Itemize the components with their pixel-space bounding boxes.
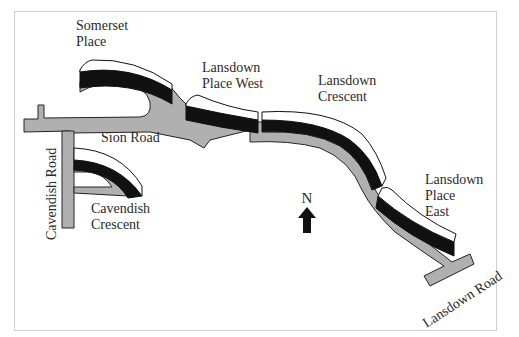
label-sion-road: Sion Road (101, 130, 160, 146)
compass-north-label: N (296, 190, 318, 206)
label-line: Lansdown (425, 172, 483, 188)
label-line: Place West (202, 76, 263, 92)
label-line: East (425, 204, 483, 220)
label-cavendish-crescent: Cavendish Crescent (91, 201, 150, 233)
label-cavendish-road: Cavendish Road (44, 148, 60, 240)
label-lansdown-place-east: Lansdown Place East (425, 172, 483, 220)
label-somerset-place: Somerset Place (76, 18, 128, 50)
label-lansdown-crescent: Lansdown Crescent (318, 73, 376, 105)
label-line: Crescent (318, 89, 376, 105)
cavendish-road (62, 131, 74, 228)
label-line: Crescent (91, 217, 150, 233)
label-line: Cavendish (91, 201, 150, 217)
compass: N (296, 190, 318, 238)
label-line: Lansdown (202, 60, 263, 76)
label-lansdown-place-west: Lansdown Place West (202, 60, 263, 92)
roads (24, 73, 474, 286)
label-line: Somerset (76, 18, 128, 34)
label-line: Lansdown (318, 73, 376, 89)
label-line: Place (76, 34, 128, 50)
label-line: Place (425, 188, 483, 204)
north-arrow-icon (296, 206, 318, 234)
street-map (0, 0, 519, 337)
